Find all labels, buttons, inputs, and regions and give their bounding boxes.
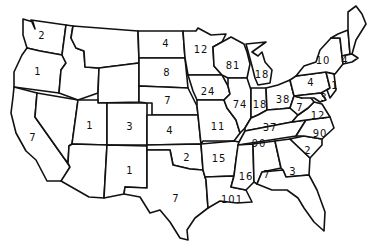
state-value-nc: 90 xyxy=(313,129,328,139)
state-value-mn: 12 xyxy=(194,45,209,55)
us-map xyxy=(0,0,373,252)
state-value-co: 3 xyxy=(126,122,133,132)
state-value-nj: 1 xyxy=(331,81,338,91)
state-value-nd: 4 xyxy=(162,39,169,49)
state-value-tx: 7 xyxy=(172,194,179,204)
state-arizona xyxy=(61,144,107,198)
state-value-ny: 10 xyxy=(316,56,331,66)
state-value-ut: 1 xyxy=(86,121,93,131)
state-value-ga: 3 xyxy=(289,167,296,177)
state-value-al: 7 xyxy=(263,170,270,180)
state-value-ok: 2 xyxy=(183,153,190,163)
state-value-mo: 11 xyxy=(211,122,226,132)
state-value-la: 101 xyxy=(221,195,243,205)
state-value-wa: 2 xyxy=(38,31,45,41)
state-value-oh: 38 xyxy=(276,95,291,105)
state-maine xyxy=(348,6,366,54)
state-value-ky: 37 xyxy=(263,123,278,133)
state-value-sc: 2 xyxy=(304,146,311,156)
state-value-mi: 18 xyxy=(255,70,270,80)
state-kansas xyxy=(147,115,201,145)
state-value-ca: 7 xyxy=(29,133,36,143)
state-wisconsin xyxy=(213,37,250,78)
state-value-pa: 4 xyxy=(307,78,314,88)
state-value-ks: 4 xyxy=(166,126,173,136)
state-value-or: 1 xyxy=(34,67,41,77)
state-value-ar: 15 xyxy=(212,154,227,164)
state-value-nm: 1 xyxy=(126,166,133,176)
state-value-wi: 81 xyxy=(226,61,241,71)
state-value-ma: 4 xyxy=(341,56,348,66)
state-value-in: 18 xyxy=(253,100,268,110)
state-value-il: 74 xyxy=(233,100,248,110)
state-value-ms: 16 xyxy=(239,172,254,182)
state-value-md: 3 xyxy=(320,93,327,103)
state-value-wv: 7 xyxy=(296,103,303,113)
state-value-ne: 7 xyxy=(164,96,171,106)
state-value-ia: 24 xyxy=(201,87,216,97)
state-wyoming xyxy=(98,63,139,103)
state-value-va: 12 xyxy=(311,111,326,121)
state-value-tn: 90 xyxy=(252,139,267,149)
state-value-sd: 8 xyxy=(163,68,170,78)
